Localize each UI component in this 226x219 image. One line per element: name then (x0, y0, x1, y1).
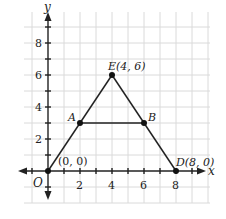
x-tick-8: 8 (172, 179, 179, 192)
label-origin-coords: (0, 0) (58, 155, 88, 168)
point-A (77, 120, 83, 126)
x-tick-4: 4 (108, 179, 115, 192)
coordinate-plane: y x O 2 4 6 8 2 4 6 8 (0, 0) A E(4, 6) B… (0, 0, 226, 219)
point-B (141, 120, 147, 126)
label-B: B (147, 111, 156, 124)
origin-label: O (33, 176, 43, 190)
y-tick-2: 2 (35, 133, 42, 146)
y-tick-8: 8 (35, 37, 42, 50)
point-O (45, 168, 51, 174)
label-D: D(8, 0) (175, 156, 214, 169)
label-A: A (67, 111, 76, 124)
grid (24, 12, 210, 203)
y-tick-6: 6 (35, 69, 42, 82)
y-tick-4: 4 (35, 101, 42, 114)
x-tick-2: 2 (76, 179, 83, 192)
label-E: E(4, 6) (107, 60, 146, 73)
x-tick-6: 6 (140, 179, 147, 192)
y-axis-label: y (43, 0, 51, 14)
